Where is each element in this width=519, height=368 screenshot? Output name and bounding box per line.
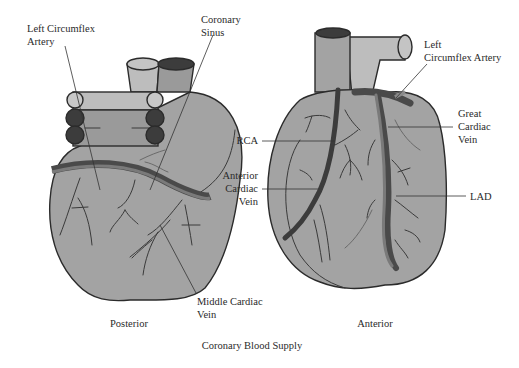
caption-posterior: Posterior — [110, 318, 148, 329]
label-middle-cardiac-vein-2: Vein — [197, 309, 217, 320]
pulmonary-veins — [66, 92, 164, 146]
label-middle-cardiac-vein-1: Middle Cardiac — [197, 296, 263, 307]
anterior-heart — [268, 28, 447, 288]
label-anterior-cardiac-vein-2: Cardiac — [225, 183, 258, 194]
anterior-great-vessels — [315, 28, 412, 95]
label-coronary-sinus-2: Sinus — [201, 27, 224, 38]
label-left-circumflex-anterior-1: Left — [424, 39, 442, 50]
label-great-cardiac-vein-2: Cardiac — [458, 121, 491, 132]
coronary-diagram: Left Circumflex Artery Coronary Sinus Mi… — [0, 0, 519, 368]
posterior-heart — [50, 58, 242, 301]
label-great-cardiac-vein-3: Vein — [458, 134, 478, 145]
label-left-circumflex-artery-1: Left Circumflex — [27, 23, 96, 34]
label-left-circumflex-artery-2: Artery — [27, 36, 55, 47]
label-rca: RCA — [236, 135, 258, 146]
label-lad: LAD — [470, 191, 492, 202]
diagram-title: Coronary Blood Supply — [202, 340, 303, 351]
caption-anterior: Anterior — [357, 318, 393, 329]
label-great-cardiac-vein-1: Great — [458, 108, 481, 119]
posterior-great-vessels — [127, 58, 194, 92]
label-anterior-cardiac-vein-3: Vein — [239, 196, 259, 207]
label-left-circumflex-anterior-2: Circumflex Artery — [424, 52, 502, 63]
label-coronary-sinus-1: Coronary — [201, 14, 241, 25]
label-anterior-cardiac-vein-1: Anterior — [222, 170, 258, 181]
